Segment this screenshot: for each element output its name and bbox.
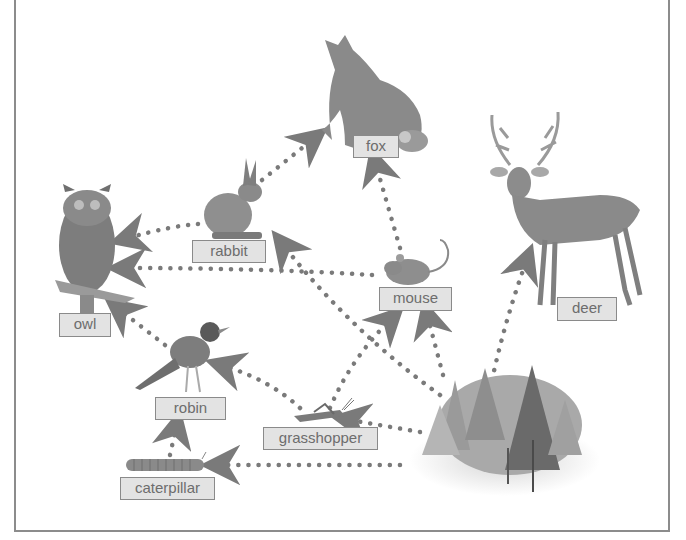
label-fox: fox (353, 135, 399, 158)
arrow-mouse-to-fox (376, 165, 400, 248)
caterpillar-illustration (126, 452, 206, 471)
grasshopper-illustration (294, 398, 354, 422)
label-grasshopper: grasshopper (263, 427, 378, 450)
arrow-trees-to-deer (492, 262, 526, 380)
arrow-caterpillar-to-robin (170, 428, 176, 455)
label-caterpillar: caterpillar (120, 477, 215, 500)
label-owl: owl (59, 313, 111, 337)
arrow-rabbit-to-owl (128, 224, 198, 238)
label-mouse: mouse (379, 287, 452, 311)
arrow-mouse-to-owl (126, 268, 372, 275)
arrow-robin-to-owl (120, 310, 165, 345)
rabbit-illustration (204, 158, 262, 239)
trees-illustration (410, 365, 600, 496)
label-robin: robin (155, 397, 226, 420)
arrow-trees-to-mouse (428, 318, 443, 375)
label-deer: deer (557, 297, 617, 321)
arrow-rabbit-to-fox (262, 140, 312, 180)
deer-illustration (490, 112, 640, 305)
arrow-grasshopper-to-robin (224, 366, 300, 408)
owl-illustration (55, 184, 135, 315)
mouse-illustration (384, 240, 448, 285)
label-rabbit: rabbit (192, 240, 266, 263)
arrow-grasshopper-to-mouse (330, 320, 390, 408)
food-web-diagram (0, 0, 686, 540)
